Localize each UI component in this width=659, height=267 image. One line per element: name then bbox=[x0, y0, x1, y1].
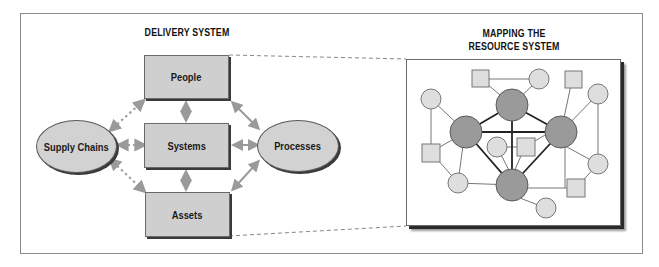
hub-node-top bbox=[496, 89, 528, 121]
node-square bbox=[472, 70, 489, 87]
node-square bbox=[565, 71, 582, 88]
node-square bbox=[567, 179, 585, 197]
node-circle bbox=[529, 69, 549, 89]
hub-node-bottom bbox=[496, 169, 528, 201]
node-circle bbox=[448, 173, 468, 193]
node-circle bbox=[487, 137, 507, 157]
hub-node-left bbox=[450, 116, 482, 148]
node-circle bbox=[588, 154, 608, 174]
hub-node-right bbox=[545, 116, 577, 148]
node-circle bbox=[536, 198, 556, 218]
node-circle bbox=[588, 84, 608, 104]
node-square bbox=[517, 138, 535, 156]
node-square bbox=[422, 144, 440, 162]
node-circle bbox=[421, 89, 441, 109]
resource-network bbox=[0, 0, 659, 267]
